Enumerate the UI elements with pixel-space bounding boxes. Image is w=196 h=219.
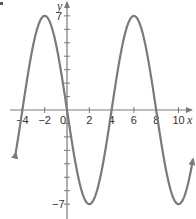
x-tick-label: 10 — [172, 114, 184, 126]
sine-graph: −4−20246810 x y 7 −7 — [0, 0, 196, 219]
corner-mark — [0, 2, 3, 5]
x-tick-label: 2 — [86, 114, 92, 126]
x-tick-label: 0 — [60, 114, 66, 126]
x-axis-label: x — [186, 113, 193, 127]
x-tick-label: −2 — [38, 114, 51, 126]
y-min-label: −7 — [52, 198, 65, 210]
x-tick-label: 6 — [131, 114, 137, 126]
y-max-label: 7 — [56, 10, 62, 22]
